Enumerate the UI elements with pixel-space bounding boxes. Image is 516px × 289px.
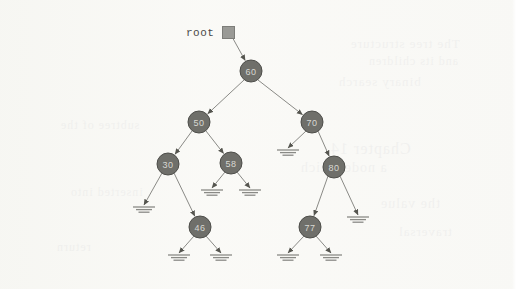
root-pointer-label: root bbox=[186, 27, 214, 39]
null-leaf-marker bbox=[320, 255, 342, 260]
tree-edge bbox=[258, 80, 303, 115]
root-pointer-box bbox=[222, 26, 235, 39]
null-edge bbox=[316, 236, 331, 253]
null-leaf-marker bbox=[201, 190, 223, 195]
null-edge bbox=[340, 176, 358, 215]
null-edge bbox=[288, 131, 306, 148]
null-edge bbox=[237, 172, 250, 188]
tree-node-value: 46 bbox=[194, 223, 205, 233]
tree-node-value: 58 bbox=[225, 159, 236, 169]
tree-edge bbox=[206, 131, 224, 154]
null-edge bbox=[179, 236, 194, 253]
tree-node-value: 50 bbox=[193, 118, 204, 128]
tree-node[interactable]: 46 bbox=[189, 216, 211, 238]
tree-node[interactable]: 58 bbox=[220, 152, 242, 174]
tree-edge bbox=[175, 131, 192, 154]
tree-node[interactable]: 77 bbox=[299, 216, 321, 238]
tree-node[interactable]: 60 bbox=[240, 60, 262, 82]
tree-node-value: 60 bbox=[245, 67, 256, 77]
null-edge bbox=[206, 236, 221, 253]
tree-node-value: 80 bbox=[328, 163, 339, 173]
tree-node[interactable]: 50 bbox=[188, 111, 210, 133]
tree-node-value: 77 bbox=[304, 223, 315, 233]
tree-node[interactable]: 30 bbox=[157, 153, 179, 175]
null-edge bbox=[212, 172, 225, 188]
figure-canvas: The tree structureand its childrenbinary… bbox=[0, 0, 516, 289]
page-right-edge bbox=[512, 0, 516, 289]
tree-node-group: 6050703058804677 bbox=[157, 60, 345, 238]
tree-edge bbox=[174, 173, 195, 216]
null-edge bbox=[288, 236, 304, 253]
binary-tree-graphic: 6050703058804677 bbox=[0, 0, 516, 289]
null-leaf-marker bbox=[347, 217, 369, 222]
tree-node-value: 30 bbox=[162, 160, 173, 170]
null-leaf-marker bbox=[210, 255, 232, 260]
null-leaf-marker bbox=[277, 255, 299, 260]
tree-edge bbox=[314, 176, 328, 216]
null-edge bbox=[144, 173, 162, 205]
tree-node-value: 70 bbox=[306, 118, 317, 128]
tree-edge bbox=[318, 131, 329, 156]
tree-node[interactable]: 80 bbox=[323, 156, 345, 178]
null-leaf-marker bbox=[277, 150, 299, 155]
null-leaf-marker bbox=[239, 190, 261, 195]
tree-edge bbox=[208, 80, 244, 114]
tree-node[interactable]: 70 bbox=[301, 111, 323, 133]
null-leaf-marker bbox=[168, 255, 190, 260]
null-leaf-marker bbox=[133, 207, 155, 212]
